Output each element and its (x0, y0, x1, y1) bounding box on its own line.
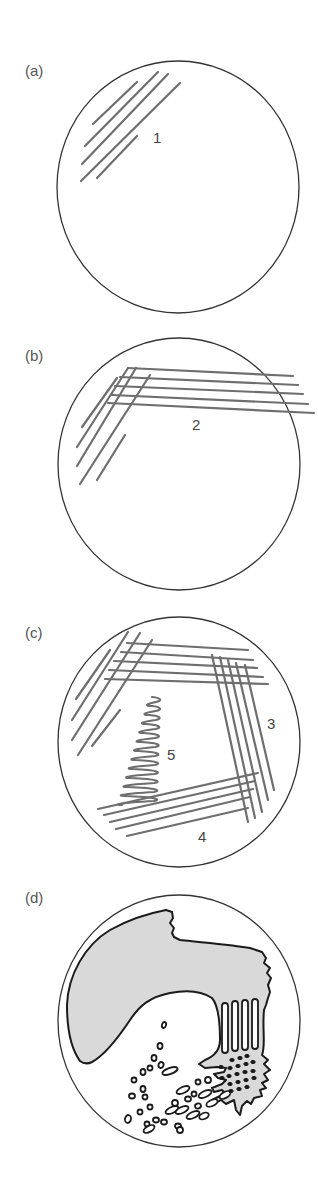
colony (153, 1118, 159, 1123)
streak-line (128, 368, 293, 376)
colony (143, 1095, 148, 1100)
growth-projection (252, 999, 258, 1049)
streak-line (81, 83, 180, 181)
dense-colony (244, 1062, 248, 1065)
streak-group-1 (72, 632, 152, 755)
colony (194, 1103, 201, 1110)
streak-line (72, 632, 128, 720)
colony (148, 1066, 153, 1071)
dense-colony (227, 1074, 231, 1077)
colony (161, 1021, 167, 1028)
dense-colony (251, 1060, 255, 1063)
streak-line (77, 368, 128, 447)
dense-colony (245, 1085, 249, 1088)
colony (158, 1061, 165, 1068)
panel-label-a: (a) (25, 62, 43, 79)
streak-label-3: 3 (267, 715, 275, 732)
dense-colony (235, 1072, 239, 1075)
colony (185, 1097, 191, 1102)
panel-d: (d) (25, 889, 300, 1147)
dense-colony (236, 1080, 240, 1083)
panel-label-b: (b) (25, 347, 43, 364)
panel-label-c: (c) (25, 624, 43, 641)
colony (141, 1069, 146, 1075)
streak-label-1: 1 (153, 129, 161, 146)
streak-label-4: 4 (198, 828, 206, 845)
colony (132, 1078, 137, 1083)
streak-line (72, 633, 140, 740)
dense-colony (229, 1089, 233, 1092)
dense-colony (245, 1054, 249, 1057)
panel-label-d: (d) (25, 889, 43, 906)
panel-b: (b) 2 (25, 338, 314, 590)
streak-line (85, 72, 158, 146)
dense-colony (219, 1065, 223, 1068)
colony (148, 1105, 153, 1110)
colony (192, 1092, 197, 1097)
colony (141, 1086, 146, 1092)
petri-dish (58, 338, 300, 590)
confluent-growth (67, 910, 271, 1115)
colony (161, 1065, 178, 1076)
colony (152, 1055, 157, 1061)
colony (161, 1120, 167, 1125)
colony (124, 1115, 131, 1124)
growth-projection (242, 1000, 248, 1050)
streak-line (97, 435, 125, 480)
colony (197, 1088, 212, 1099)
colony (185, 1109, 200, 1120)
streak-plate-figure: (a) 1 (b) 2 (c) 3 4 5 (d) (0, 0, 318, 1191)
growth-projection (222, 1003, 228, 1053)
dense-colony (236, 1064, 240, 1067)
petri-dish (57, 61, 299, 313)
streak-line (82, 74, 168, 164)
dense-colony (244, 1078, 248, 1081)
streak-group-1 (77, 368, 150, 484)
colony (129, 1094, 135, 1099)
dense-colony (230, 1058, 234, 1061)
dense-colony (228, 1066, 232, 1069)
dense-colony (243, 1070, 247, 1073)
streak-line (112, 395, 308, 404)
colony (177, 1127, 183, 1133)
dense-colony (251, 1069, 255, 1072)
colony (172, 1100, 178, 1106)
colony (158, 1043, 163, 1049)
colony (205, 1098, 218, 1109)
streak-label-5: 5 (167, 746, 175, 763)
colony (138, 1110, 143, 1115)
streak-label-2: 2 (192, 416, 200, 433)
streak-group-1 (81, 72, 180, 181)
streak-line (105, 679, 268, 684)
colony (196, 1080, 201, 1085)
dense-colony (228, 1082, 232, 1085)
growth-projection (232, 1001, 238, 1051)
dense-colony (237, 1087, 241, 1090)
streak-line (80, 375, 150, 484)
streak-line (78, 640, 152, 755)
colony (175, 1084, 190, 1095)
colony (205, 1077, 211, 1083)
dense-colony (220, 1076, 224, 1079)
panel-c: (c) 3 4 5 (25, 617, 300, 867)
panel-a: (a) 1 (25, 61, 299, 313)
streak-line (108, 403, 314, 413)
dense-colony (252, 1076, 256, 1079)
streak-line (93, 82, 137, 124)
streak-zigzag-5 (118, 697, 160, 805)
dense-colony (238, 1056, 242, 1059)
streak-line (76, 650, 110, 699)
